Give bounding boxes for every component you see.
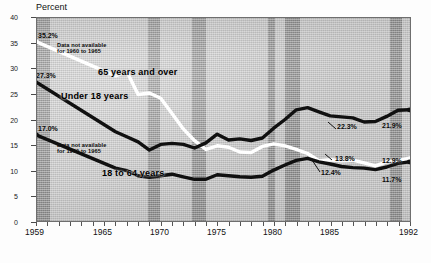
x-tick	[240, 222, 241, 226]
y-axis-title: Percent	[36, 2, 67, 12]
x-tick	[36, 222, 37, 226]
y-tick-15	[31, 145, 36, 146]
data-label-elderly-start: 35.2%	[38, 32, 58, 39]
x-tick	[47, 222, 48, 226]
y-tick-35	[31, 43, 36, 44]
y-tick-25	[31, 94, 36, 95]
x-tick	[149, 222, 150, 226]
y-label-15: 15	[0, 142, 18, 149]
x-tick	[342, 222, 343, 226]
x-label-1965: 1965	[93, 228, 112, 237]
x-tick	[365, 222, 366, 226]
x-tick	[229, 222, 230, 226]
y-tick-20	[31, 120, 36, 121]
x-tick	[308, 222, 309, 226]
x-label-1970: 1970	[150, 228, 169, 237]
x-tick	[387, 222, 388, 226]
y-tick-10	[31, 171, 36, 172]
note-lower-line2: for 1960 to 1965	[57, 148, 106, 154]
x-tick	[93, 222, 94, 226]
x-tick	[263, 222, 264, 226]
x-label-1992: 1992	[399, 228, 418, 237]
x-tick	[81, 222, 82, 226]
x-tick	[251, 222, 252, 226]
note-upper-line2: for 1960 to 1965	[57, 48, 106, 54]
y-label-30: 30	[0, 65, 18, 72]
x-tick	[206, 222, 207, 226]
y-tick-5	[31, 196, 36, 197]
chart-figure: Percent	[0, 0, 431, 263]
x-tick	[70, 222, 71, 226]
plot-area: 65 years and over Under 18 years 18 to 6…	[36, 17, 411, 222]
x-tick	[399, 222, 400, 226]
x-tick	[195, 222, 196, 226]
x-tick	[217, 222, 218, 226]
x-tick	[410, 222, 411, 226]
data-label-children-end: 21.9%	[382, 122, 402, 129]
series-label-under-18: Under 18 years	[61, 91, 128, 101]
data-label-adults-start: 17.0%	[38, 125, 58, 132]
x-tick	[353, 222, 354, 226]
y-label-5: 5	[0, 193, 18, 200]
y-label-10: 10	[0, 168, 18, 175]
y-label-25: 25	[0, 91, 18, 98]
data-label-adults-peak: 12.4%	[321, 169, 341, 176]
x-tick	[138, 222, 139, 226]
data-label-adults-end: 11.7%	[382, 176, 401, 183]
y-tick-30	[31, 68, 36, 69]
x-tick	[115, 222, 116, 226]
x-tick	[274, 222, 275, 226]
y-label-20: 20	[0, 117, 18, 124]
x-label-1980: 1980	[263, 228, 282, 237]
x-tick	[331, 222, 332, 226]
y-label-40: 40	[0, 14, 18, 21]
series-label-65-and-over: 65 years and over	[98, 67, 177, 77]
data-label-elderly-mid: 13.8%	[335, 155, 355, 162]
x-tick	[161, 222, 162, 226]
x-tick	[127, 222, 128, 226]
x-label-1975: 1975	[207, 228, 226, 237]
x-tick	[376, 222, 377, 226]
data-label-children-peak: 22.3%	[337, 123, 357, 130]
x-tick	[59, 222, 60, 226]
y-label-0: 0	[0, 219, 18, 226]
x-label-1959: 1959	[25, 228, 44, 237]
y-tick-40	[31, 17, 36, 18]
leader-22-3	[328, 122, 336, 129]
data-label-elderly-end: 12.9%	[382, 157, 402, 164]
x-tick	[172, 222, 173, 226]
data-label-children-start: 27.3%	[36, 72, 56, 79]
note-upper: Data not available for 1960 to 1965	[57, 42, 106, 55]
x-tick	[297, 222, 298, 226]
x-tick	[319, 222, 320, 226]
x-tick	[104, 222, 105, 226]
series-label-18-to-64: 18 to 64 years	[102, 168, 164, 178]
x-tick	[285, 222, 286, 226]
x-label-1985: 1985	[320, 228, 339, 237]
x-tick	[183, 222, 184, 226]
note-lower: Data not available for 1960 to 1965	[57, 142, 106, 155]
y-label-35: 35	[0, 40, 18, 47]
